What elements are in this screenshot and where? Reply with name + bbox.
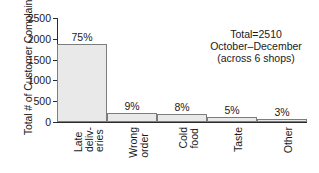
y-axis-tick-label: 0 [45,117,51,128]
y-axis-tick-label: 1000 [28,75,51,86]
chart-annotation: Total=2510 October–December (across 6 sh… [196,29,316,64]
x-axis-category-label: Coldfood [178,127,199,149]
category-label-line: food [188,127,199,149]
x-axis-category-label: Latedeliv-eries [73,127,105,152]
y-axis-tick-mark [53,18,57,19]
category-label-line: eries [94,127,105,152]
annotation-line-period: October–December [196,41,316,53]
bar: 9% [107,113,157,122]
bar: 3% [257,119,307,122]
annotation-line-scope: (across 6 shops) [196,53,316,65]
x-axis-category-label: Taste [233,127,244,152]
x-axis-line [57,122,307,123]
x-axis-category-label: Other [283,127,294,153]
category-label-line: order [138,127,149,158]
category-label-line: Wrong [128,127,139,158]
bar: 5% [207,117,257,122]
y-axis-tick-mark [53,39,57,40]
bar: 8% [157,114,207,122]
category-label-line: Taste [233,127,244,152]
y-axis-tick-label: 2500 [28,13,51,24]
bar: 75% [57,44,107,122]
bar-value-label: 5% [224,105,239,116]
category-label-line: Cold [178,127,189,149]
bar-value-label: 3% [274,107,289,118]
bar-value-label: 8% [174,102,189,113]
category-label-line: Other [283,127,294,153]
bar-value-label: 75% [71,32,92,43]
y-axis-tick-label: 2000 [28,34,51,45]
bar-chart: Total # of Customer Complaints 050010001… [0,0,319,173]
y-axis-tick-label: 500 [33,96,51,107]
category-label-line: Late [73,127,84,152]
y-axis-tick-label: 1500 [28,54,51,65]
category-label-line: deliv- [83,127,94,152]
y-axis-tick-mark [53,122,57,123]
bar-value-label: 9% [124,101,139,112]
x-axis-category-label: Wrongorder [128,127,149,158]
